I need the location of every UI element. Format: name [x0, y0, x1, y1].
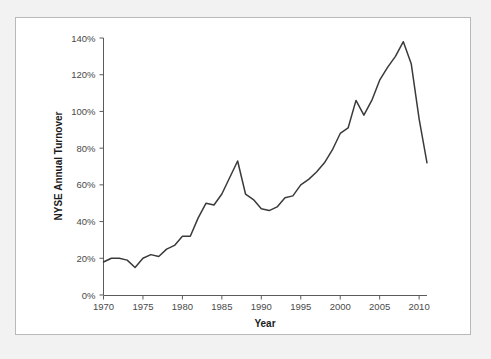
chart-panel — [15, 17, 471, 335]
page-background: 0%20%40%60%80%100%120%140% 1970197519801… — [0, 0, 491, 359]
